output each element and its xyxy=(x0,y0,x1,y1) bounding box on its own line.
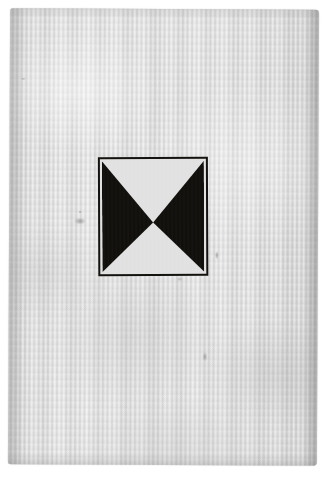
bowtie-device xyxy=(98,157,208,276)
scan-caption: Photographic scan of an aged laid-paper … xyxy=(0,0,1,1)
scan-canvas: Photographic scan of an aged laid-paper … xyxy=(0,0,332,478)
paper-sheet xyxy=(8,8,319,466)
figure-square-frame xyxy=(98,157,208,276)
figure-plate-area xyxy=(102,161,204,272)
bowtie-svg xyxy=(102,161,204,272)
